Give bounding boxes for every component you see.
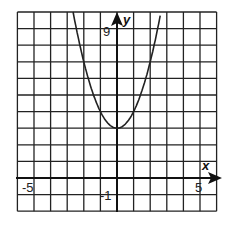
tick-label-x-neg5: -5 <box>22 180 34 195</box>
x-axis-label: x <box>201 158 210 173</box>
tick-label-x-5: 5 <box>195 180 202 195</box>
tick-label-y-neg1: -1 <box>100 188 112 203</box>
tick-label-y-9: 9 <box>103 24 110 39</box>
y-axis-label: y <box>122 12 131 27</box>
coordinate-plane: y x -5 5 9 -1 <box>0 0 230 229</box>
